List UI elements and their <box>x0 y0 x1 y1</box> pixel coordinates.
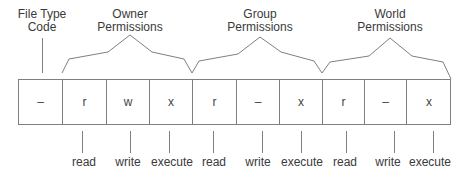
label-line: Permissions <box>97 21 162 34</box>
cell-owner-execute: x <box>150 80 192 124</box>
group-brace <box>192 37 322 73</box>
bottom-label-execute: execute <box>281 155 323 169</box>
bottom-label-write: write <box>115 155 140 169</box>
bottom-label-read: read <box>202 155 226 169</box>
file-type-code-label: File Type Code <box>18 8 66 34</box>
owner-brace <box>62 35 192 73</box>
owner-permissions-label: Owner Permissions <box>97 8 162 34</box>
cell-owner-write: w <box>107 80 149 124</box>
cell-owner-read: r <box>63 80 106 124</box>
cell-world-execute: x <box>407 80 451 124</box>
cell-file-type: – <box>19 80 62 124</box>
label-line: Permissions <box>227 21 292 34</box>
bottom-label-read: read <box>333 155 357 169</box>
bottom-label-read: read <box>72 155 96 169</box>
cell-group-write: – <box>237 80 279 124</box>
cell-world-read: r <box>323 80 364 124</box>
cell-world-write: – <box>365 80 406 124</box>
bottom-label-execute: execute <box>151 155 193 169</box>
cell-group-read: r <box>193 80 236 124</box>
cell-group-execute: x <box>280 80 322 124</box>
world-permissions-label: World Permissions <box>357 8 422 34</box>
group-permissions-label: Group Permissions <box>227 8 292 34</box>
label-line: Permissions <box>357 21 422 34</box>
bottom-label-write: write <box>245 155 270 169</box>
label-line: Code <box>18 21 66 34</box>
bottom-label-execute: execute <box>409 155 451 169</box>
world-brace <box>322 38 451 79</box>
bottom-label-write: write <box>375 155 400 169</box>
